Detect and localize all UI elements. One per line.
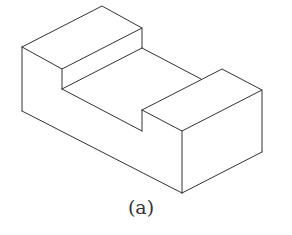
bottom-left-edge [22,111,182,193]
slot-floor-front-edge [62,89,142,131]
slot-back-right-edge [142,48,201,79]
right-block-top-face [142,69,262,131]
figure-caption: (a) [0,196,282,218]
bottom-right-edge [182,152,262,193]
left-block-top-face [22,6,142,69]
slot-floor-back-edge [62,48,142,89]
